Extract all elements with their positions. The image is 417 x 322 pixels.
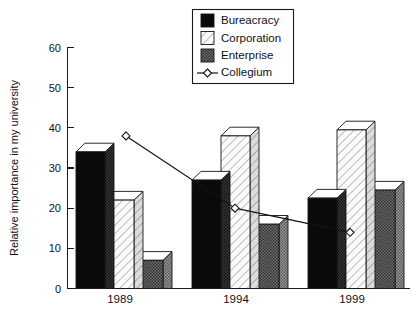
y-tick-label-20: 20 — [49, 202, 61, 214]
x-tick-label-1994: 1994 — [223, 293, 249, 305]
x-tick-label-1999: 1999 — [339, 293, 365, 305]
bar-chart-svg: 60 50 40 30 20 10 0 Relative importance … — [0, 0, 417, 322]
y-axis-tick-labels: 60 50 40 30 20 10 0 — [49, 42, 61, 295]
x-axis-tick-labels: 1989 1994 1999 — [107, 293, 365, 305]
x-axis: 1989 1994 1999 — [68, 289, 411, 306]
bar-group-1994 — [192, 127, 288, 288]
chart-legend: Bureacracy Corporation Enterprise Colleg… — [193, 10, 294, 84]
y-tick-label-60: 60 — [49, 42, 61, 54]
y-tick-label-40: 40 — [49, 122, 61, 134]
y-tick-label-50: 50 — [49, 82, 61, 94]
legend-swatch-checker-gray-icon — [201, 49, 214, 62]
y-axis-title: Relative importance in my university — [8, 79, 20, 256]
legend-label-enterprise: Enterprise — [221, 49, 273, 61]
bar-group-1989 — [76, 143, 172, 288]
legend-entry-corporation[interactable]: Corporation — [201, 32, 281, 45]
bar-1999-bureacracy — [308, 189, 346, 288]
y-tick-label-10: 10 — [49, 242, 61, 254]
x-tick-label-1989: 1989 — [107, 293, 133, 305]
legend-label-collegium: Collegium — [221, 66, 272, 78]
legend-entry-enterprise[interactable]: Enterprise — [201, 49, 273, 62]
chart-figure: 60 50 40 30 20 10 0 Relative importance … — [0, 0, 417, 322]
y-axis-ticks — [68, 48, 74, 289]
bar-1989-bureacracy — [76, 143, 114, 288]
collegium-marker-1989 — [122, 132, 130, 140]
y-tick-label-30: 30 — [49, 162, 61, 174]
bar-1994-bureacracy — [192, 171, 230, 288]
bar-group-1999 — [308, 121, 404, 288]
legend-swatch-solid-black-icon — [201, 14, 214, 27]
legend-label-corporation: Corporation — [221, 32, 281, 44]
legend-label-bureacracy: Bureacracy — [221, 14, 279, 26]
y-tick-label-0: 0 — [55, 283, 61, 295]
legend-swatch-hatch-light-icon — [201, 32, 214, 45]
y-axis: 60 50 40 30 20 10 0 Relative importance … — [8, 42, 74, 295]
legend-entry-bureacracy[interactable]: Bureacracy — [201, 14, 279, 27]
